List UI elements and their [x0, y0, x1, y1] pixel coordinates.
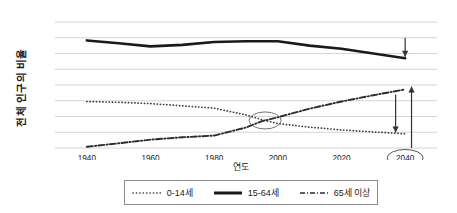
y-axis-title-text: 전체 인구의 비율 — [13, 48, 28, 127]
legend-label-0-14: 0-14세 — [167, 186, 193, 199]
series-line-65 — [87, 89, 405, 146]
series-line-15-64 — [87, 40, 405, 58]
legend-label-15-64: 15-64세 — [248, 186, 279, 199]
plot-area: 0102030405060708019401960198020002020204… — [55, 14, 437, 160]
series-line-0-14 — [87, 102, 405, 134]
chart-figure: 전체 인구의 비율 010203040506070801940196019802… — [0, 0, 457, 213]
legend-swatch-dashdot — [299, 188, 329, 198]
legend-item-0-14: 0-14세 — [132, 186, 193, 199]
legend-swatch-dotted — [132, 188, 162, 198]
legend-swatch-solid — [213, 188, 243, 198]
chart-canvas: 0102030405060708019401960198020002020204… — [55, 14, 437, 160]
x-axis-title-text: 연도 — [233, 162, 249, 172]
y-axis-title: 전체 인구의 비율 — [6, 14, 34, 160]
chart-legend: 0-14세 15-64세 65세 이상 — [124, 180, 378, 205]
legend-label-65-plus: 65세 이상 — [334, 186, 371, 199]
x-axis-title: 연도 — [0, 160, 457, 173]
legend-item-15-64: 15-64세 — [213, 186, 279, 199]
legend-item-65-plus: 65세 이상 — [299, 186, 371, 199]
